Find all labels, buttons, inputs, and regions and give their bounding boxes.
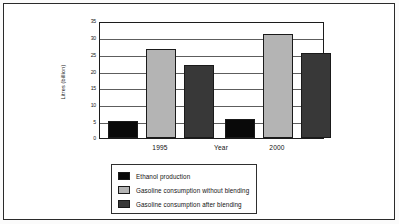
bar <box>146 49 176 138</box>
y-axis-tick-label: 25 <box>80 53 96 58</box>
y-axis-tick-label: 15 <box>80 86 96 91</box>
bar <box>108 121 138 138</box>
plot-area <box>99 22 324 139</box>
bar <box>184 65 214 138</box>
legend-item: Ethanol production <box>118 169 256 183</box>
legend-label: Gasoline consumption after blending <box>136 201 242 208</box>
y-axis-title: Litres (billion) <box>60 52 66 112</box>
y-axis-tick-label: 35 <box>80 19 96 24</box>
chart-page: Litres (billion) 05101520253035 Ethanol … <box>0 0 399 224</box>
bar <box>301 53 331 138</box>
legend-item: Gasoline consumption without blending <box>118 183 256 197</box>
y-axis-tick-label: 20 <box>80 70 96 75</box>
y-axis-tick-label: 5 <box>80 120 96 125</box>
y-axis-tick-label: 30 <box>80 36 96 41</box>
legend-swatch-ethanol-production <box>118 172 130 181</box>
chart-legend: Ethanol production Gasoline consumption … <box>111 164 257 214</box>
legend-item: Gasoline consumption after blending <box>118 197 256 211</box>
y-axis-tick-labels: 05101520253035 <box>80 22 96 139</box>
image-frame: Litres (billion) 05101520253035 Ethanol … <box>3 3 395 220</box>
y-axis-tick-label: 0 <box>80 136 96 141</box>
legend-swatch-gasoline-after-blending <box>118 200 130 209</box>
legend-label: Ethanol production <box>136 173 190 180</box>
x-axis-tick-label: 1995 <box>140 144 180 151</box>
x-axis-tick-label: 2000 <box>257 144 297 151</box>
y-axis-tick-label: 10 <box>80 103 96 108</box>
legend-swatch-gasoline-without-blending <box>118 186 130 195</box>
bar <box>263 34 293 138</box>
x-axis-title: Year <box>201 144 241 151</box>
bar <box>225 119 255 138</box>
legend-label: Gasoline consumption without blending <box>136 187 249 194</box>
